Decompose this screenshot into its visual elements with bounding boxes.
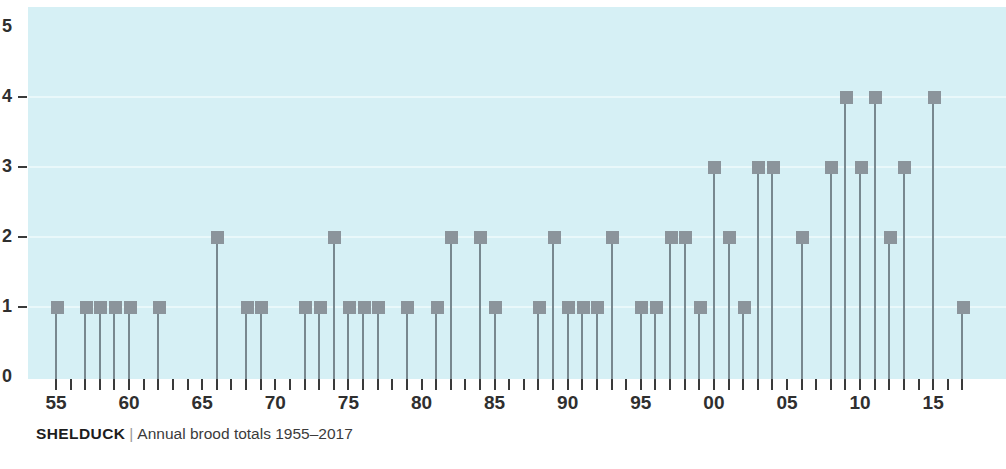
data-point-marker: [825, 161, 838, 174]
x-tick-label-85: 85: [475, 392, 515, 414]
y-tick-dash-4: [18, 96, 27, 98]
data-point-marker: [153, 301, 166, 314]
data-stem: [84, 307, 86, 379]
data-point-marker: [299, 301, 312, 314]
data-point-marker: [694, 301, 707, 314]
x-axis: 55606570758085909500051015: [28, 379, 1006, 427]
x-tick: [494, 379, 496, 390]
data-stem: [55, 307, 57, 379]
data-stem: [830, 167, 832, 379]
x-tick: [567, 379, 569, 390]
x-tick: [172, 379, 174, 390]
data-point-marker: [328, 231, 341, 244]
x-tick: [421, 379, 423, 390]
y-tick-dash-2: [18, 236, 27, 238]
x-tick: [713, 379, 715, 390]
x-tick: [888, 379, 890, 390]
data-stem: [581, 307, 583, 379]
data-point-marker: [562, 301, 575, 314]
data-stem: [494, 307, 496, 379]
x-tick: [479, 379, 481, 390]
data-point-marker: [94, 301, 107, 314]
data-stem: [406, 307, 408, 379]
x-tick: [333, 379, 335, 390]
data-stem: [537, 307, 539, 379]
x-tick: [274, 379, 276, 390]
data-stem: [742, 307, 744, 379]
data-stem: [611, 237, 613, 379]
x-tick-label-15: 15: [913, 392, 953, 414]
x-tick: [596, 379, 598, 390]
x-tick: [611, 379, 613, 390]
caption-separator: |: [125, 425, 137, 442]
x-tick: [157, 379, 159, 390]
x-tick: [581, 379, 583, 390]
x-tick: [786, 379, 788, 390]
data-point-marker: [884, 231, 897, 244]
data-stem: [961, 307, 963, 379]
y-tick-label-0: 0: [0, 366, 12, 386]
data-stem: [859, 167, 861, 379]
data-point-marker: [898, 161, 911, 174]
data-point-marker: [591, 301, 604, 314]
x-tick: [318, 379, 320, 390]
x-tick: [201, 379, 203, 390]
x-tick: [70, 379, 72, 390]
x-tick: [859, 379, 861, 390]
x-tick: [537, 379, 539, 390]
x-tick: [961, 379, 963, 390]
data-stem: [669, 237, 671, 379]
x-tick-label-65: 65: [182, 392, 222, 414]
data-point-marker: [723, 231, 736, 244]
data-stem: [757, 167, 759, 379]
data-point-marker: [635, 301, 648, 314]
data-stem: [333, 237, 335, 379]
data-point-marker: [241, 301, 254, 314]
data-stem: [377, 307, 379, 379]
x-tick-label-00: 00: [694, 392, 734, 414]
x-tick: [523, 379, 525, 390]
data-stem: [844, 97, 846, 379]
x-tick-label-80: 80: [402, 392, 442, 414]
data-stem: [216, 237, 218, 379]
x-tick: [187, 379, 189, 390]
data-point-marker: [869, 91, 882, 104]
x-tick: [230, 379, 232, 390]
data-stem: [728, 237, 730, 379]
x-tick: [801, 379, 803, 390]
x-tick: [55, 379, 57, 390]
data-point-marker: [752, 161, 765, 174]
data-point-marker: [211, 231, 224, 244]
x-tick: [260, 379, 262, 390]
x-tick: [245, 379, 247, 390]
data-point-marker: [548, 231, 561, 244]
data-point-marker: [489, 301, 502, 314]
x-tick: [918, 379, 920, 390]
x-tick: [932, 379, 934, 390]
data-point-marker: [577, 301, 590, 314]
x-tick: [728, 379, 730, 390]
data-point-marker: [665, 231, 678, 244]
caption-subtitle: Annual brood totals 1955–2017: [137, 425, 352, 442]
data-point-marker: [928, 91, 941, 104]
data-stem: [801, 237, 803, 379]
data-stem: [932, 97, 934, 379]
data-point-marker: [957, 301, 970, 314]
x-tick: [304, 379, 306, 390]
gridline-4: [28, 96, 1006, 98]
x-tick: [757, 379, 759, 390]
data-stem: [874, 97, 876, 379]
data-point-marker: [708, 161, 721, 174]
data-point-marker: [314, 301, 327, 314]
data-point-marker: [431, 301, 444, 314]
data-stem: [771, 167, 773, 379]
x-tick: [391, 379, 393, 390]
data-stem: [318, 307, 320, 379]
data-stem: [552, 237, 554, 379]
x-tick: [435, 379, 437, 390]
data-stem: [684, 237, 686, 379]
x-tick: [347, 379, 349, 390]
data-stem: [654, 307, 656, 379]
x-tick: [625, 379, 627, 390]
data-stem: [304, 307, 306, 379]
